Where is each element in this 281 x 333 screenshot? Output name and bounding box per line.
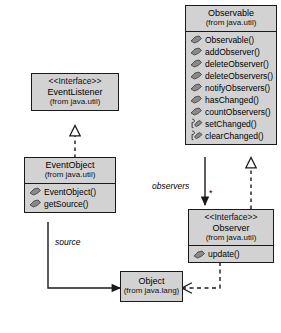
operation-row[interactable]: deleteObservers() [186,70,276,82]
operation-row[interactable]: deleteObserver() [186,58,276,70]
operation-label: countObservers() [205,106,271,118]
edge-multiplicity-observers: * [209,188,213,198]
class-name-object: Object [123,276,180,286]
class-header-event-object: EventObject (from java.util) [25,158,115,184]
operation-label: update() [208,248,240,260]
class-name-observer: Observer [191,223,271,233]
operation-label: Observable() [205,34,254,46]
edge-observer-depends-object [183,262,220,288]
class-package-observer: (from java.util) [191,233,271,242]
public-method-icon [193,249,206,260]
class-stereotype-observer: <<Interface>> [191,213,271,223]
class-package-event-object: (from java.util) [27,170,113,179]
edge-eventobject-source-object [48,222,120,288]
operation-row[interactable]: addObserver() [186,46,276,58]
operation-row[interactable]: countObservers() [186,106,276,118]
edge-label-source: source [55,237,81,247]
public-method-icon [29,198,42,209]
public-method-icon [190,70,203,81]
public-method-icon [190,82,203,93]
class-box-observable[interactable]: Observable (from java.util) Observable() [185,5,277,145]
edge-label-observers: observers [152,181,189,191]
protected-method-icon [190,118,203,129]
class-header-observer: <<Interface>> Observer (from java.util) [189,210,273,246]
operations-list-observable: Observable() addObserver() deleteObserve… [186,32,276,144]
operation-label: hasChanged() [205,94,259,106]
operation-row[interactable]: notifyObservers() [186,82,276,94]
class-box-observer[interactable]: <<Interface>> Observer (from java.util) … [188,209,274,263]
public-method-icon [190,94,203,105]
class-name-observable: Observable [188,8,274,18]
uml-diagram-canvas: Observer (association "observers" *, sol… [0,0,281,333]
public-method-icon [190,58,203,69]
public-method-icon [190,34,203,45]
class-header-observable: Observable (from java.util) [186,6,276,32]
class-name-event-listener: EventListener [34,87,116,97]
operation-label: clearChanged() [205,130,264,142]
operation-label: EventObject() [44,186,96,198]
operation-row[interactable]: hasChanged() [186,94,276,106]
operation-row[interactable]: setChanged() [186,118,276,130]
class-box-object[interactable]: Object (from java.lang) [120,271,183,302]
operation-label: deleteObservers() [205,70,273,82]
operation-row[interactable]: Observable() [186,34,276,46]
operations-list-event-object: EventObject() getSource() [25,184,115,212]
class-box-event-object[interactable]: EventObject (from java.util) EventObject… [24,157,116,213]
public-method-icon [29,186,42,197]
class-stereotype-event-listener: <<Interface>> [34,77,116,87]
operation-row[interactable]: clearChanged() [186,130,276,142]
class-header-event-listener: <<Interface>> EventListener (from java.u… [32,74,118,110]
operation-row[interactable]: getSource() [25,198,115,210]
operation-label: addObserver() [205,46,260,58]
class-package-event-listener: (from java.util) [34,97,116,106]
operation-row[interactable]: update() [189,248,273,260]
operation-label: getSource() [44,198,88,210]
protected-method-icon [190,130,203,141]
operation-row[interactable]: EventObject() [25,186,115,198]
class-package-observable: (from java.util) [188,18,274,27]
class-box-event-listener[interactable]: <<Interface>> EventListener (from java.u… [31,73,119,111]
operations-list-observer: update() [189,246,273,262]
operation-label: notifyObservers() [205,82,270,94]
class-package-object: (from java.lang) [123,286,180,295]
class-header-object: Object (from java.lang) [121,272,182,301]
operation-label: setChanged() [205,118,257,130]
class-name-event-object: EventObject [27,160,113,170]
operation-label: deleteObserver() [205,58,269,70]
public-method-icon [190,46,203,57]
public-method-icon [190,106,203,117]
